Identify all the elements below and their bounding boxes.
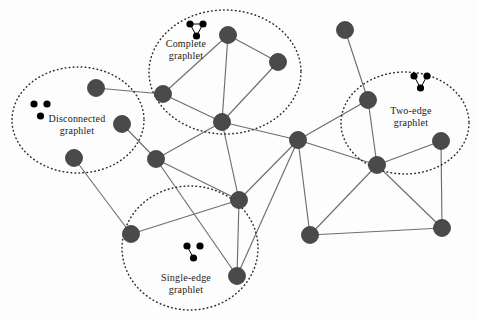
graph-edge [377,141,441,165]
graph-node [270,54,287,71]
graph-node [214,114,231,131]
graph-node [229,268,246,285]
graph-edge [310,165,377,235]
graph-edge [222,62,278,122]
graphlet-icons-layer [30,20,430,261]
graph-node [433,133,450,150]
graphlet-icon-node [43,100,50,107]
graphlet-icon-node [410,72,417,79]
graph-node [114,116,131,133]
graphlet-ellipse-two-edge [341,72,469,174]
graphlet-icon-node [193,32,200,39]
graph-edge [222,35,228,122]
graphlet-icon-node [196,242,203,249]
graphlet-network-figure: Complete graphlet Disconnected graphlet … [0,0,478,321]
graph-edge [237,140,298,276]
graphlet-icon-node [423,72,430,79]
graphlet-icon-node [30,100,37,107]
graphlet-icon-node [190,254,197,261]
graph-node [360,92,377,109]
graphlet-icon-node [37,112,44,119]
graph-edge [222,122,298,140]
graph-edge [377,165,442,228]
graph-edge [368,100,377,165]
graph-edge [156,122,222,159]
graph-edge [163,35,228,94]
graphlet-icon-node [417,84,424,91]
graphlet-icon-disconnected [30,100,50,119]
graph-node [434,220,451,237]
graph-edge [298,140,377,165]
graph-edge [310,228,442,235]
graph-node [88,80,105,97]
graph-edge [237,200,239,276]
graph-edge [298,140,310,235]
graph-node [66,150,83,167]
graphlet-icon-complete [186,20,206,39]
graph-node [290,132,307,149]
graph-node [231,192,248,209]
graph-node [148,151,165,168]
graph-edge [96,88,163,94]
graph-node [123,226,140,243]
graph-edge [298,100,368,140]
graph-node [369,157,386,174]
graph-edge [441,141,442,228]
graph-edge [239,140,298,200]
graphlet-icon-node [186,20,193,27]
graphlet-icon-two-edge [410,72,430,91]
graphlet-icon-single-edge [183,242,203,261]
graph-node [337,22,354,39]
graphlet-icon-node [199,20,206,27]
graph-edge [131,200,239,234]
graph-node [302,227,319,244]
graph-edge [345,30,368,100]
graph-node [155,86,172,103]
graph-node [220,27,237,44]
graphlet-icon-node [183,242,190,249]
network-canvas [0,0,478,321]
graph-edge [163,94,222,122]
graph-edge [156,159,239,200]
